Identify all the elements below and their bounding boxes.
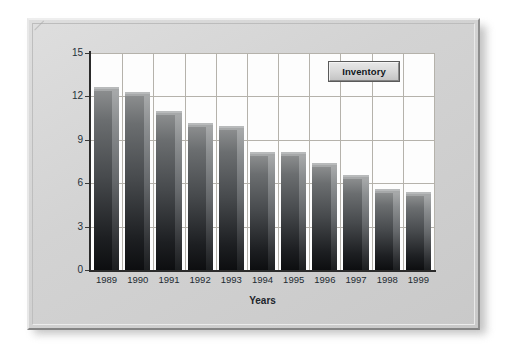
bar-1990[interactable] — [125, 96, 150, 270]
bar-top-highlight — [375, 189, 400, 191]
y-tick-mark-12 — [85, 96, 89, 97]
x-tick-label-1995: 1995 — [278, 274, 309, 285]
bar-front-face — [219, 130, 237, 270]
bar-front-face — [312, 167, 330, 270]
bar-side-face — [331, 167, 338, 270]
x-tick-label-1997: 1997 — [340, 274, 371, 285]
x-tick-label-1996: 1996 — [309, 274, 340, 285]
bar-1996[interactable] — [312, 167, 337, 270]
x-tick-label-1993: 1993 — [216, 274, 247, 285]
bar-top-face — [250, 152, 275, 156]
bar-slot-1989 — [91, 53, 122, 270]
bar-top-highlight — [343, 175, 368, 177]
y-tick-label-9: 9 — [0, 134, 83, 145]
bar-side-face — [144, 96, 151, 270]
plot-area — [91, 53, 434, 270]
bar-top-face — [375, 189, 400, 193]
bar-top-face — [343, 175, 368, 179]
bar-series-inventory — [91, 53, 434, 270]
frame-corner-nick — [25, 11, 44, 30]
bar-front-face — [281, 156, 299, 270]
x-tick-label-1990: 1990 — [122, 274, 153, 285]
x-tick-label-1998: 1998 — [372, 274, 403, 285]
bar-1989[interactable] — [94, 91, 119, 270]
bar-side-face — [299, 156, 306, 270]
bar-top-face — [94, 87, 119, 91]
y-tick-mark-9 — [85, 140, 89, 141]
bar-slot-1999 — [403, 53, 434, 270]
bar-side-face — [362, 179, 369, 270]
bar-1995[interactable] — [281, 156, 306, 270]
bar-top-highlight — [406, 192, 431, 194]
bar-top-highlight — [188, 123, 213, 125]
y-tick-label-6: 6 — [0, 177, 83, 188]
bar-front-face — [375, 193, 393, 270]
bar-top-face — [281, 152, 306, 156]
bar-1997[interactable] — [343, 179, 368, 270]
y-tick-mark-6 — [85, 183, 89, 184]
y-tick-label-0: 0 — [0, 264, 83, 275]
bar-top-highlight — [312, 163, 337, 165]
x-axis-title: Years — [91, 295, 434, 306]
bar-top-highlight — [281, 152, 306, 154]
bar-top-highlight — [94, 87, 119, 89]
bar-side-face — [268, 156, 275, 270]
x-tick-label-1991: 1991 — [153, 274, 184, 285]
bar-slot-1991 — [153, 53, 184, 270]
bar-side-face — [112, 91, 119, 270]
bar-side-face — [175, 115, 182, 270]
legend-inventory[interactable]: Inventory — [329, 62, 399, 81]
bar-slot-1995 — [278, 53, 309, 270]
bar-slot-1997 — [340, 53, 371, 270]
x-tick-label-1989: 1989 — [91, 274, 122, 285]
bar-top-face — [406, 192, 431, 196]
x-tick-label-1994: 1994 — [247, 274, 278, 285]
bar-top-face — [188, 123, 213, 127]
y-tick-label-15: 15 — [0, 47, 83, 58]
bar-front-face — [406, 196, 424, 270]
y-tick-label-3: 3 — [0, 221, 83, 232]
bar-side-face — [206, 127, 213, 270]
bar-top-face — [125, 92, 150, 96]
bar-slot-1993 — [216, 53, 247, 270]
bar-top-highlight — [219, 126, 244, 128]
gridline-v-11 — [434, 53, 435, 270]
bar-1994[interactable] — [250, 156, 275, 270]
y-tick-label-12: 12 — [0, 90, 83, 101]
bar-top-face — [219, 126, 244, 130]
y-tick-mark-3 — [85, 227, 89, 228]
bar-front-face — [343, 179, 361, 270]
bar-side-face — [237, 130, 244, 270]
bar-1993[interactable] — [219, 130, 244, 270]
x-tick-label-1999: 1999 — [403, 274, 434, 285]
bar-side-face — [393, 193, 400, 270]
bar-1991[interactable] — [156, 115, 181, 270]
bar-front-face — [250, 156, 268, 270]
bar-front-face — [125, 96, 143, 270]
bar-top-highlight — [156, 111, 181, 113]
bar-front-face — [188, 127, 206, 270]
bar-top-face — [156, 111, 181, 115]
chart-screenshot: Percentage of Total Assets 03691215 1989… — [0, 0, 507, 351]
x-tick-label-1992: 1992 — [185, 274, 216, 285]
bar-1999[interactable] — [406, 196, 431, 270]
y-tick-mark-0 — [85, 270, 89, 271]
bar-top-highlight — [250, 152, 275, 154]
bar-slot-1994 — [247, 53, 278, 270]
bar-top-face — [312, 163, 337, 167]
bar-slot-1996 — [309, 53, 340, 270]
bar-1998[interactable] — [375, 193, 400, 270]
bar-front-face — [156, 115, 174, 270]
x-axis-line — [89, 270, 436, 272]
bar-slot-1998 — [372, 53, 403, 270]
bar-slot-1992 — [185, 53, 216, 270]
bar-front-face — [94, 91, 112, 270]
bar-side-face — [424, 196, 431, 270]
bar-1992[interactable] — [188, 127, 213, 270]
bar-top-highlight — [125, 92, 150, 94]
y-tick-mark-15 — [85, 53, 89, 54]
bar-slot-1990 — [122, 53, 153, 270]
legend-label: Inventory — [342, 66, 386, 77]
